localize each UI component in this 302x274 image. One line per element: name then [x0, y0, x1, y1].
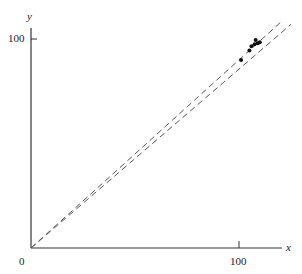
dashed-line: [31, 22, 281, 248]
data-points: [239, 38, 262, 62]
dashed-lines: [31, 22, 291, 248]
origin-label: 0: [19, 255, 25, 267]
data-point: [247, 48, 251, 52]
y-axis-label: y: [27, 10, 32, 22]
y-tick-label: 100: [8, 32, 25, 44]
dashed-line: [31, 24, 291, 248]
x-axis-label: x: [286, 241, 291, 253]
data-point: [239, 58, 243, 62]
x-tick-label: 100: [230, 255, 247, 267]
data-point: [258, 40, 262, 44]
chart-plot: [0, 0, 302, 274]
